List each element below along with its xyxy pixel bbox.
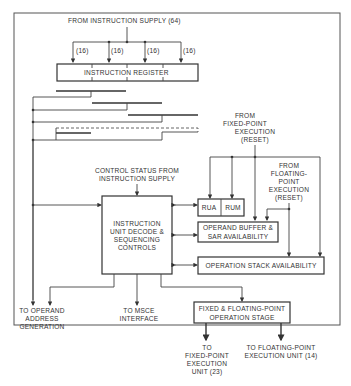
- bus-width-4: (16): [183, 47, 196, 55]
- fixed-point-reset-3: EXECUTION: [235, 128, 275, 135]
- bus-width-2: (16): [111, 47, 124, 55]
- floating-point-reset-5: (RESET): [275, 194, 303, 202]
- decode-box-3: SEQUENCING: [114, 236, 160, 244]
- to-operand-address-1: TO OPERAND: [19, 307, 65, 314]
- to-operand-address-3: GENERATION: [19, 323, 64, 330]
- fixed-point-reset-1: FROM: [235, 112, 255, 119]
- to-fixed-point-4: UNIT (23): [192, 368, 223, 376]
- bus-width-1: (16): [76, 47, 89, 55]
- decode-box-1: INSTRUCTION: [113, 220, 160, 227]
- top-input-label: FROM INSTRUCTION SUPPLY (64): [68, 17, 181, 25]
- operand-buffer-1: OPERAND BUFFER &: [203, 224, 274, 231]
- to-operand-address-2: ADDRESS: [25, 315, 59, 322]
- operation-stage-2: OPERATION STAGE: [209, 314, 274, 321]
- floating-point-reset-1: FROM: [279, 162, 299, 169]
- operand-buffer-2: SAR AVAILABILITY: [208, 233, 269, 240]
- floating-point-reset-2: FLOATING-: [271, 170, 307, 177]
- decode-sequencing-box: [102, 196, 172, 274]
- floating-point-reset-4: EXECUTION: [269, 186, 309, 193]
- floating-point-reset-3: POINT: [278, 178, 299, 185]
- to-fixed-point-3: EXECUTION: [187, 360, 227, 367]
- decode-box-4: CONTROLS: [118, 244, 157, 251]
- control-status-2: INSTRUCTION SUPPLY: [99, 175, 175, 182]
- to-msce-2: INTERFACE: [120, 315, 159, 322]
- operation-stack-label: OPERATION STACK AVAILABILITY: [205, 262, 316, 269]
- operation-stage-1: FIXED & FLOATING-POINT: [199, 305, 286, 312]
- fixed-point-reset-4: (RESET): [241, 136, 269, 144]
- to-fixed-point-1: TO: [202, 344, 211, 351]
- instruction-unit-diagram: FROM INSTRUCTION SUPPLY (64) (16) (16) (…: [0, 0, 351, 386]
- control-status-1: CONTROL STATUS FROM: [95, 167, 179, 174]
- fixed-point-reset-2: FIXED-POINT: [223, 120, 267, 127]
- to-floating-point-1: TO FLOATING-POINT: [246, 344, 315, 351]
- to-fixed-point-2: FIXED-POINT: [185, 352, 229, 359]
- to-floating-point-2: EXECUTION UNIT (14): [245, 352, 318, 360]
- decode-box-2: UNIT DECODE &: [110, 228, 165, 235]
- rua-label: RUA: [202, 204, 217, 211]
- instruction-register-label: INSTRUCTION REGISTER: [84, 69, 169, 76]
- bus-width-3: (16): [147, 47, 160, 55]
- rum-label: RUM: [225, 204, 241, 211]
- to-msce-1: TO MSCE: [123, 307, 155, 314]
